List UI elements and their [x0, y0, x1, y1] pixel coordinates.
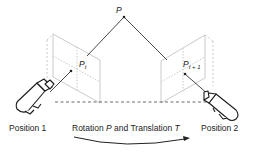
label-pt: Pt: [79, 60, 86, 70]
label-pt-sub: t: [85, 64, 87, 70]
camera-left-icon: [16, 79, 54, 114]
left-image-plane: [47, 34, 100, 103]
motion-middle: and Translation: [112, 123, 175, 133]
label-position-2: Position 2: [201, 124, 238, 133]
label-motion: Rotation P and Translation T: [72, 124, 180, 133]
label-pt1-sub: t + 1: [189, 64, 201, 70]
point-p: [123, 16, 126, 19]
label-pt1: Pt + 1: [183, 60, 201, 70]
label-position-1: Position 1: [9, 124, 46, 133]
projection-rays: [50, 17, 209, 95]
motion-prefix: Rotation: [72, 123, 106, 133]
motion-translation-symbol: T: [175, 123, 180, 133]
point-pt: [70, 70, 73, 73]
motion-arrow: [74, 137, 185, 144]
camera-right-icon: [204, 91, 238, 121]
arrowhead-icon: [183, 136, 190, 141]
label-p: P: [116, 6, 122, 15]
point-pt1: [184, 73, 187, 76]
